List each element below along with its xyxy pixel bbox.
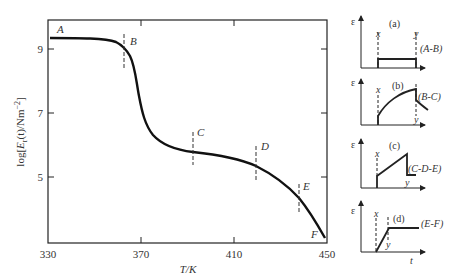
point-label-b: B <box>130 35 137 47</box>
point-label-d: D <box>260 140 269 152</box>
x-tick-label: 330 <box>40 248 57 260</box>
panel-c-region: (C-D-E) <box>408 163 442 175</box>
panel-a-x: x <box>375 28 381 39</box>
panel-a-y: y <box>413 28 419 39</box>
panel-b-y: y <box>413 114 419 125</box>
panel-b-title: (b) <box>392 80 404 92</box>
x-tick-label: 370 <box>133 248 150 260</box>
panel-a-region: (A-B) <box>420 43 443 55</box>
transition-markers <box>124 34 299 214</box>
panel-c-title: (c) <box>389 140 400 152</box>
panel-b-x: x <box>375 84 381 95</box>
point-label-c: C <box>197 126 205 138</box>
panel-d-region: (E-F) <box>421 218 444 230</box>
y-tick-label: 9 <box>38 43 44 55</box>
y-ticks <box>48 49 327 177</box>
y-tick-label: 7 <box>38 107 44 119</box>
panel-d-t: t <box>410 255 413 266</box>
x-ticks <box>141 20 234 243</box>
panel-c-x: x <box>374 148 380 159</box>
point-label-f: F <box>310 228 318 240</box>
y-axis-label: log[Er(t)/Nm−2] <box>13 97 29 166</box>
figure: 330 370 410 450 9 7 5 T/K log[Er(t)/Nm−2… <box>0 0 462 280</box>
panel-c-eps: ε <box>351 139 355 150</box>
modulus-curve <box>50 38 325 238</box>
panel-d-title: (d) <box>393 213 405 225</box>
panel-a-title: (a) <box>389 18 400 30</box>
panel-d-eps: ε <box>351 205 355 216</box>
main-chart: 330 370 410 450 9 7 5 T/K log[Er(t)/Nm−2… <box>13 20 336 275</box>
panel-d <box>361 201 425 252</box>
panel-a-eps: ε <box>351 16 355 27</box>
panel-d-y: y <box>385 239 391 250</box>
plot-frame <box>48 20 327 243</box>
point-label-a: A <box>56 23 64 35</box>
point-label-e: E <box>302 180 310 192</box>
panel-b-region: (B-C) <box>418 91 441 103</box>
x-tick-label: 410 <box>226 248 243 260</box>
x-tick-label: 450 <box>319 248 336 260</box>
panel-c-y: y <box>404 177 410 188</box>
y-tick-label: 5 <box>38 171 44 183</box>
panel-b-eps: ε <box>351 77 355 88</box>
panel-d-x: x <box>373 208 379 219</box>
x-axis-label: T/K <box>180 263 197 275</box>
